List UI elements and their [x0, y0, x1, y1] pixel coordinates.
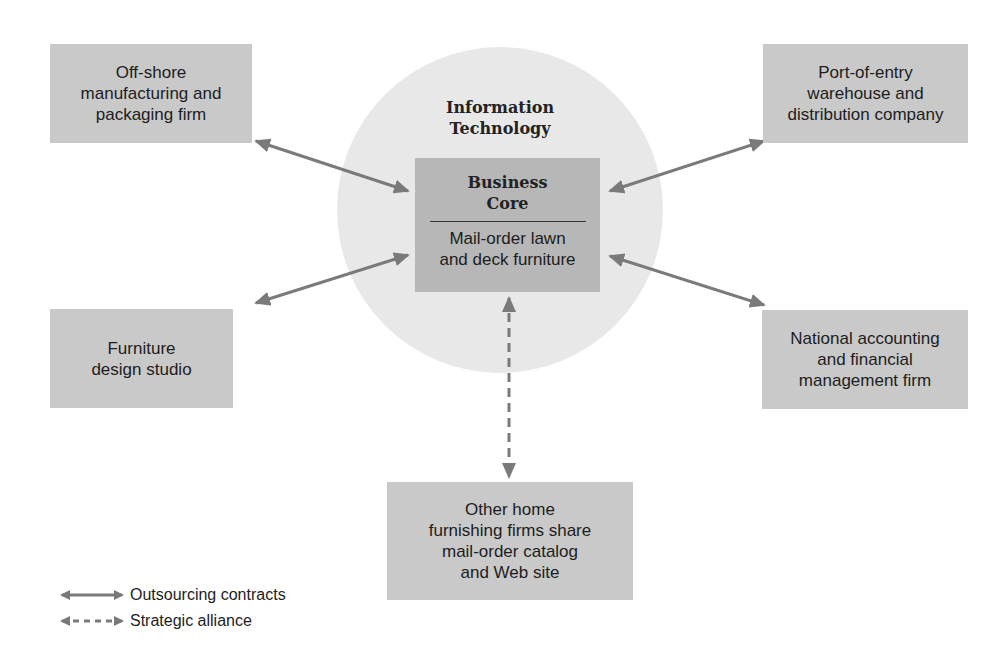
- node-text-line: distribution company: [788, 104, 944, 125]
- legend-swatch-solid: [60, 587, 122, 603]
- business-core-description: Mail-order lawn and deck furniture: [439, 228, 575, 270]
- node-text-line: Furniture: [107, 338, 175, 359]
- core-title-line2: Core: [467, 193, 547, 214]
- node-text-line: packaging firm: [96, 104, 207, 125]
- core-desc-line2: and deck furniture: [439, 249, 575, 270]
- core-title-line1: Business: [467, 172, 547, 193]
- it-label-line1: Information: [400, 97, 600, 118]
- node-offshore-manufacturing: Off-shore manufacturing and packaging fi…: [50, 44, 252, 143]
- legend-item-outsourcing: Outsourcing contracts: [60, 582, 286, 608]
- node-text-line: furnishing firms share: [429, 520, 592, 541]
- legend-swatch-dashed: [60, 613, 122, 629]
- it-label-line2: Technology: [400, 118, 600, 139]
- legend: Outsourcing contracts Strategic alliance: [60, 582, 286, 634]
- business-core-title: Business Core: [467, 172, 547, 214]
- node-text-line: Off-shore: [116, 62, 187, 83]
- node-text-line: warehouse and: [807, 83, 923, 104]
- business-core-box: Business Core Mail-order lawn and deck f…: [415, 158, 600, 292]
- node-text-line: design studio: [91, 359, 191, 380]
- information-technology-label: Information Technology: [400, 97, 600, 139]
- node-text-line: Port-of-entry: [818, 62, 912, 83]
- node-text-line: and financial: [817, 349, 912, 370]
- node-home-furnishing-alliance: Other home furnishing firms share mail-o…: [387, 482, 633, 600]
- node-furniture-design-studio: Furniture design studio: [50, 309, 233, 408]
- core-desc-line1: Mail-order lawn: [439, 228, 575, 249]
- node-national-accounting-firm: National accounting and financial manage…: [762, 310, 968, 409]
- node-text-line: Other home: [465, 499, 555, 520]
- node-text-line: and Web site: [461, 562, 560, 583]
- legend-label-strategic-alliance: Strategic alliance: [130, 612, 252, 630]
- node-text-line: management firm: [799, 370, 931, 391]
- node-text-line: National accounting: [790, 328, 939, 349]
- node-text-line: manufacturing and: [81, 83, 222, 104]
- node-text-line: mail-order catalog: [442, 541, 578, 562]
- node-port-of-entry-warehouse: Port-of-entry warehouse and distribution…: [763, 44, 968, 143]
- legend-item-strategic-alliance: Strategic alliance: [60, 608, 286, 634]
- core-divider: [430, 221, 586, 222]
- legend-label-outsourcing: Outsourcing contracts: [130, 586, 286, 604]
